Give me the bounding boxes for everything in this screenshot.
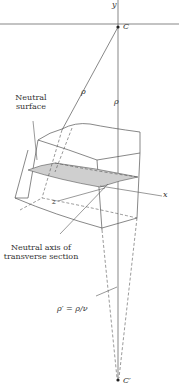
block-back-right-edge — [137, 153, 140, 218]
dashed-line-to-c-prime-right — [119, 218, 137, 378]
block-top-edge — [38, 124, 140, 140]
block-bottom-front-edge — [15, 198, 102, 228]
dashed-line-to-c-prime-left — [102, 230, 117, 378]
hidden-edge-lower — [20, 198, 42, 210]
block-bottom-right-edge — [102, 218, 137, 228]
x-axis-label: x — [163, 190, 168, 199]
neutral-axis-label-line1: Neutral axis of — [0, 243, 82, 252]
y-axis-label: y — [112, 0, 117, 9]
center-c-point — [116, 25, 119, 28]
beam-bending-diagram — [0, 0, 179, 392]
z-axis-label: z — [52, 197, 56, 206]
neutral-surface-shaded — [28, 163, 138, 187]
leader-neutral-surface — [33, 121, 37, 160]
center-c-prime-point — [116, 378, 119, 381]
c-prime-label: C′ — [123, 376, 131, 385]
leader-rho-prime — [96, 287, 117, 296]
neutral-surface-label-line1: Neutral — [13, 93, 49, 102]
rho-slanted-label: ρ — [81, 87, 86, 96]
c-label: C — [123, 22, 129, 31]
rho-vertical-label: ρ — [114, 97, 119, 106]
block-top-front-edge — [38, 140, 140, 160]
x-axis-line — [100, 186, 162, 196]
block-front-left-lower — [15, 150, 28, 198]
rho-prime-relation-label: ρ′ = ρ/ν — [57, 304, 88, 313]
hidden-edge-bottom-back — [42, 198, 137, 218]
radius-line-rho — [62, 27, 118, 130]
neutral-axis-label: Neutral axis of transverse section — [0, 243, 82, 261]
neutral-surface-label-line2: surface — [13, 102, 49, 111]
neutral-axis-label-line2: transverse section — [0, 252, 82, 261]
neutral-surface-label: Neutral surface — [13, 93, 49, 111]
